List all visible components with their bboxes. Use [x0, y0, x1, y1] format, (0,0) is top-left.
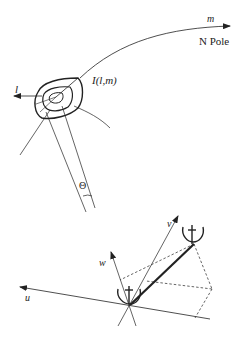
sky-plane: [14, 26, 230, 212]
w-axis-label: w: [99, 258, 106, 268]
u-axis: [20, 287, 210, 319]
m-axis-curve: [80, 26, 230, 78]
u-axis-label: u: [25, 293, 30, 303]
angle-arc: [83, 195, 92, 196]
meridian-arc: [74, 106, 110, 128]
antenna-1-icon: [118, 286, 141, 304]
angle-theta-label: Θ: [79, 181, 86, 191]
m-axis-label: m: [207, 14, 214, 24]
w-axis: [111, 252, 136, 326]
source-intensity-label: I(l,m): [92, 75, 117, 86]
sightline-1: [20, 110, 50, 155]
antenna-2-icon: [183, 225, 204, 244]
v-axis-label: v: [167, 219, 171, 229]
n-pole-label: N Pole: [199, 36, 229, 47]
diagram-canvas: [0, 0, 240, 339]
l-axis-label: l: [15, 84, 18, 95]
source-contour-outer: [35, 78, 83, 119]
source-contour-middle: [43, 87, 73, 111]
v-axis: [118, 216, 178, 326]
